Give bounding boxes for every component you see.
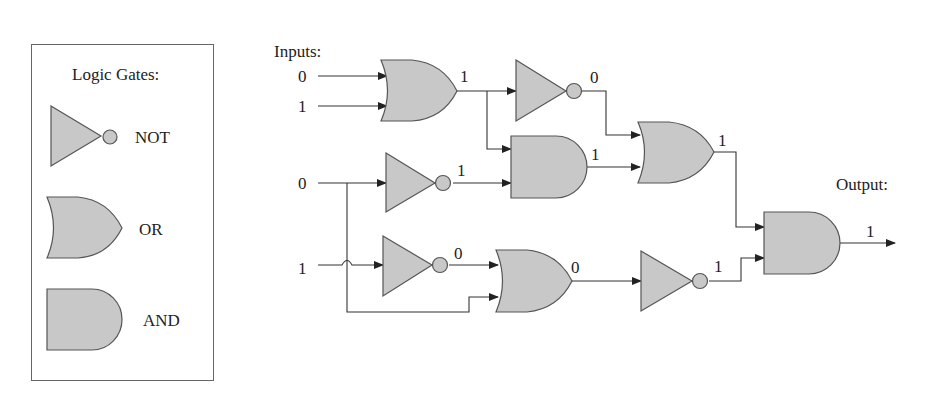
not-gate-2 bbox=[386, 153, 451, 212]
or-gate-2-output: 1 bbox=[718, 131, 727, 150]
input-b-value: 1 bbox=[298, 97, 307, 116]
input-c-value: 0 bbox=[298, 174, 307, 193]
not-gate-2-output: 1 bbox=[457, 161, 466, 180]
and-gate-2 bbox=[764, 212, 840, 274]
legend-and-label: AND bbox=[143, 311, 180, 330]
or-gate-1 bbox=[381, 60, 457, 121]
legend-title: Logic Gates: bbox=[72, 65, 159, 84]
final-output-value: 1 bbox=[866, 222, 875, 241]
legend-or-label: OR bbox=[139, 220, 163, 239]
logic-circuit-diagram: Logic Gates: NOT OR AND Inputs: Output: … bbox=[0, 0, 932, 397]
and-gate-1-output: 1 bbox=[591, 145, 600, 164]
legend-and-icon bbox=[47, 289, 122, 350]
not-gate-3-output: 0 bbox=[454, 244, 463, 263]
not-gate-1-output: 0 bbox=[590, 68, 599, 87]
inputs-label: Inputs: bbox=[274, 42, 321, 61]
input-d-value: 1 bbox=[298, 259, 307, 278]
not-gate-1 bbox=[516, 60, 582, 121]
or-gate-3 bbox=[496, 250, 572, 312]
and-gate-1 bbox=[511, 136, 587, 198]
or-gate-2 bbox=[638, 122, 714, 183]
or-gate-1-output: 1 bbox=[460, 67, 469, 86]
legend-not-label: NOT bbox=[135, 128, 171, 147]
or-gate-3-output: 0 bbox=[571, 258, 580, 277]
legend-panel: Logic Gates: NOT OR AND bbox=[32, 45, 214, 381]
output-label: Output: bbox=[836, 175, 888, 194]
input-a-value: 0 bbox=[298, 67, 307, 86]
not-gate-4-output: 1 bbox=[714, 257, 723, 276]
not-gate-3 bbox=[383, 236, 448, 296]
not-gate-4 bbox=[641, 251, 708, 311]
